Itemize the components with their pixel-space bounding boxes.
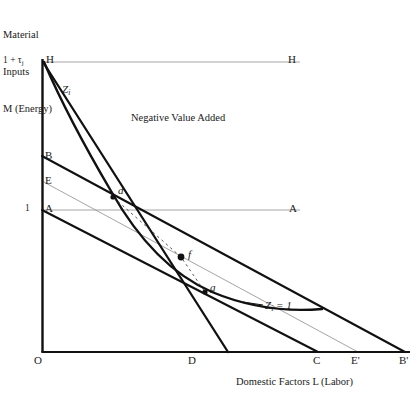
y-axis-title: Material Inputs M (Energy)	[3, 4, 52, 140]
point-label-h-left: H	[46, 53, 54, 66]
point-marker-f	[178, 254, 185, 261]
point-marker-d	[110, 194, 115, 199]
x-tick-label-d: D	[188, 354, 196, 367]
diagram-svg	[0, 0, 420, 399]
y-tick-top-main: 1 + τ	[3, 55, 22, 65]
x-tick-label-e-prime: E'	[351, 354, 360, 367]
line-e-eprime	[42, 181, 358, 352]
point-label-g: g	[210, 281, 216, 294]
point-label-a-right: A	[289, 202, 297, 215]
y-axis-title-line-2: Inputs	[3, 66, 52, 78]
point-label-b: B	[45, 149, 52, 162]
y-axis-title-line-1: Material	[3, 29, 52, 41]
point-marker-g	[202, 289, 207, 294]
isoquant-label-top: Zi	[62, 83, 70, 97]
line-h-d	[43, 62, 228, 352]
isoquant-label-value: Zi = 1	[265, 299, 292, 313]
point-label-a-left: A	[45, 202, 53, 215]
x-tick-label-c: C	[313, 354, 320, 367]
line-b-bprime	[42, 156, 405, 352]
y-tick-top-sub: j	[22, 59, 24, 66]
isoquant-value-tail: = 1	[273, 299, 291, 311]
point-label-f: f	[188, 248, 191, 261]
isoquant-curve	[44, 62, 322, 310]
y-tick-label-unity: 1	[25, 203, 30, 214]
point-label-d: d	[118, 184, 124, 197]
region-label-negative-value-added: Negative Value Added	[131, 112, 225, 124]
x-axis-title: Domestic Factors L (Labor)	[236, 376, 353, 388]
isoquant-label-top-sub: i	[68, 88, 70, 97]
point-label-h-right: H	[288, 53, 296, 66]
x-tick-label-o: O	[34, 354, 42, 367]
figure-canvas: Material Inputs M (Energy) Domestic Fact…	[0, 0, 420, 399]
point-label-e: E	[45, 174, 52, 187]
y-axis-title-line-3: M (Energy)	[3, 103, 52, 115]
x-tick-label-b-prime: B'	[399, 354, 408, 367]
y-tick-label-top: 1 + τj	[3, 55, 24, 67]
